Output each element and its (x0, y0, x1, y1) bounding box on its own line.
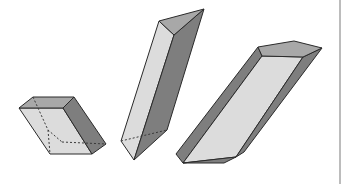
trough-prism (176, 41, 322, 163)
page-divider-line (339, 0, 341, 184)
rectangular-prism (19, 97, 106, 154)
prisms-diagram (0, 0, 343, 184)
